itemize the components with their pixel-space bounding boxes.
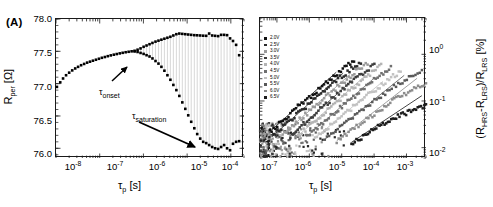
tau-onset-subscript: onset — [103, 92, 120, 99]
legend-marker-icon — [264, 37, 267, 40]
panel-a-ytick-0: 78.0 — [12, 14, 52, 24]
panel-b-ytick-2: 10-2 — [429, 147, 459, 158]
panel-b-xtick-0: 10-7 — [252, 161, 286, 172]
legend-label: 6.5V — [270, 94, 279, 101]
legend-item-2-0V[interactable]: 2.0V — [264, 35, 279, 42]
legend-label: 6.0V — [270, 88, 279, 95]
panel-a-plot-area — [55, 18, 243, 157]
panel-b-xtick-3: 10-4 — [354, 161, 388, 172]
legend-marker-icon — [264, 57, 267, 60]
panel-a-xaxis-title: τp [s] — [118, 180, 141, 193]
panel-b-yaxis-title: (RHRS-RLRS)/RLRS [%] — [475, 4, 488, 174]
panel-a-ytick-3: 76.5 — [12, 116, 52, 126]
legend-item-4-0V[interactable]: 4.0V — [264, 61, 279, 68]
legend-marker-icon — [264, 83, 267, 86]
legend-item-6-5V[interactable]: 6.5V — [264, 94, 279, 101]
panel-b-xtick-4: 10-3 — [388, 161, 422, 172]
panel-b-xtick-2: 10-5 — [320, 161, 354, 172]
panel-a-xtick-4: 10-4 — [213, 161, 247, 172]
panel-b-plot-area — [259, 17, 425, 157]
panel-a-xtick-2: 10-6 — [140, 161, 174, 172]
panel-a-yaxis-title-main: R — [2, 97, 14, 105]
panel-b-xtick-1: 10-6 — [286, 161, 320, 172]
legend-marker-icon — [264, 50, 267, 53]
panel-a-xtick-0: 10-8 — [56, 161, 90, 172]
panel-a-xtick-3: 10-5 — [182, 161, 216, 172]
panel-a-xtick-1: 10-7 — [98, 161, 132, 172]
panel-a-yaxis-title-unit: [Ω] — [2, 69, 14, 86]
panel-a-ytick-1: 77.5 — [12, 48, 52, 58]
panel-a-yaxis-title: Rper [Ω] — [3, 55, 16, 119]
tau-saturation-subscript: saturation — [136, 116, 167, 123]
legend-item-4-5V[interactable]: 4.5V — [264, 68, 279, 75]
panel-b-legend: 2.0V2.5V3.0V3.5V4.0V4.5V5.0V5.5V6.0V6.5V — [264, 35, 279, 101]
panel-a-ytick-2: 77.0 — [12, 82, 52, 92]
legend-item-3-0V[interactable]: 3.0V — [264, 48, 279, 55]
legend-label: 5.5V — [270, 81, 279, 88]
legend-label: 2.5V — [270, 42, 279, 49]
panel-a-yaxis-title-sub: per — [8, 86, 17, 96]
panel-a: (A) 78.0 77.5 77.0 76.5 76.0 Rper [Ω] τo… — [0, 0, 247, 207]
legend-item-3-5V[interactable]: 3.5V — [264, 55, 279, 62]
legend-item-5-0V[interactable]: 5.0V — [264, 75, 279, 82]
legend-item-5-5V[interactable]: 5.5V — [264, 81, 279, 88]
legend-marker-icon — [264, 63, 267, 66]
legend-label: 3.0V — [270, 48, 279, 55]
legend-marker-icon — [264, 70, 267, 73]
panel-b-data-layer — [260, 18, 426, 158]
legend-label: 3.5V — [270, 55, 279, 62]
panel-a-ytick-4: 76.0 — [12, 149, 52, 159]
legend-item-6-0V[interactable]: 6.0V — [264, 88, 279, 95]
annotation-tau-onset: τonset — [99, 88, 120, 99]
panel-a-data-layer — [56, 19, 244, 158]
panel-b: (B) 2.0V2.5V3.0V3.5V4.0V4.5V5.0V5.5V6.0V… — [247, 0, 493, 207]
legend-marker-icon — [264, 90, 267, 93]
legend-marker-icon — [264, 77, 267, 80]
legend-marker-icon — [264, 44, 267, 47]
figure-container: (A) 78.0 77.5 77.0 76.5 76.0 Rper [Ω] τo… — [0, 0, 493, 207]
legend-marker-icon — [264, 96, 267, 99]
panel-b-ytick-0: 100 — [429, 44, 459, 55]
legend-label: 5.0V — [270, 75, 279, 82]
panel-b-ytick-1: 10-1 — [429, 96, 459, 107]
legend-label: 4.0V — [270, 61, 279, 68]
panel-b-xaxis-title: τp [s] — [309, 180, 332, 193]
legend-label: 2.0V — [270, 35, 279, 42]
legend-item-2-5V[interactable]: 2.5V — [264, 42, 279, 49]
legend-label: 4.5V — [270, 68, 279, 75]
annotation-tau-saturation: τsaturation — [132, 112, 166, 123]
